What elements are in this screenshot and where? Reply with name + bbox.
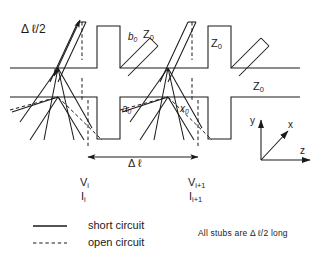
x0-lower-right-label: x0 [180,104,189,115]
b0-sub: 0 [134,36,138,43]
figure-root: Δ ℓ/2 Δ ℓ Z0 Z0 Z0 b0 a0 x0 Vi Ii Vi+1 I… [0,0,322,257]
port-right-voltage-label: Vi+1 [188,177,206,189]
v-i-sub: i [87,181,89,190]
i-i1-sub: i+1 [192,195,202,204]
legend-open-circuit-label: open circuit [88,237,144,248]
diagonal-stub-upper-middle [120,38,158,76]
axis-x-label: x [288,120,293,130]
legend-short-circuit-label: short circuit [88,220,144,231]
stub-length-note: All stubs are Δ ℓ/2 long [198,229,288,238]
delta-l-label: Δ ℓ [128,158,141,169]
x0-sub: 0 [185,108,189,115]
diagonal-stub-upper-right [160,22,196,82]
axis-z-label: z [300,146,305,156]
axis-y-label: y [250,116,255,126]
z0-diagonal-stub-sub: 0 [150,33,154,42]
z0-main-line-sub: 0 [260,85,264,94]
z0-diagonal-stub-label: Z0 [143,29,154,41]
port-left-current-label: Ii [81,191,86,203]
v-i1-sub: i+1 [195,181,205,190]
z0-vertical-stub-label: Z0 [211,38,222,50]
port-left-voltage-label: Vi [80,177,89,189]
z0-diagonal-stub-text: Z [143,28,150,40]
z0-main-line-label: Z0 [253,81,264,93]
z0-vertical-stub-text: Z [211,37,218,49]
port-right-current-label: Ii+1 [189,191,202,203]
z0-vertical-stub-sub: 0 [218,42,222,51]
i-i-sub: i [84,195,86,204]
b0-upper-diagonal-label: b0 [128,32,137,43]
axis-x [261,131,288,160]
a0-sub: 0 [128,108,132,115]
z0-main-line-text: Z [253,80,260,92]
delta-l-half-label: Δ ℓ/2 [21,23,46,35]
a0-lower-diagonal-label: a0 [122,104,131,115]
transmission-line-stub-diagram [0,0,322,257]
upper-rail-with-stubs [10,26,300,68]
diagonal-stub-far-upper-right [231,38,269,76]
